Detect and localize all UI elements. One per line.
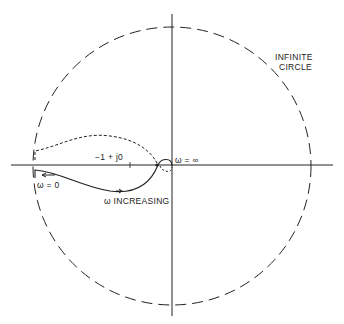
critical-point-marker [155, 163, 158, 166]
nyquist-diagram [0, 0, 344, 324]
infinite-circle-label-1: INFINITE [275, 52, 313, 62]
critical-point-label: −1 + j0 [95, 152, 123, 162]
omega-infinity-label: ω = ∞ [175, 155, 199, 165]
infinite-circle-label-2: CIRCLE [279, 62, 312, 72]
omega-zero-label: ω = 0 [37, 180, 60, 190]
mirror-loop [160, 166, 172, 171]
omega-increasing-label: ω INCREASING [104, 196, 170, 206]
arrow-increasing-icon [116, 189, 122, 193]
